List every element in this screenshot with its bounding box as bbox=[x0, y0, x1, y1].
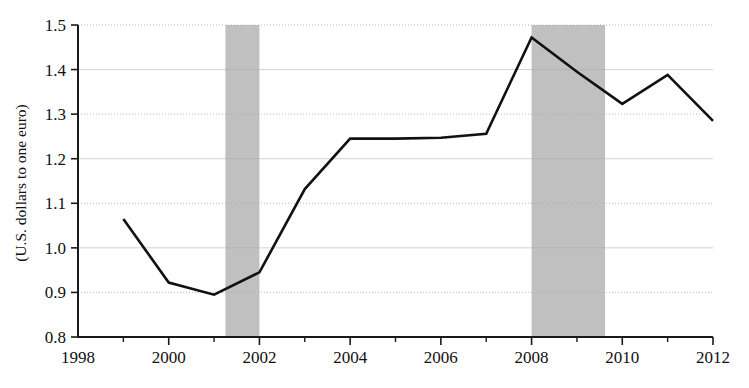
y-tick-label-0.9: 0.9 bbox=[45, 283, 66, 302]
x-tick-label-2000: 2000 bbox=[152, 348, 186, 367]
y-tick-label-1.2: 1.2 bbox=[45, 150, 66, 169]
x-tick-label-2008: 2008 bbox=[515, 348, 549, 367]
x-tick-label-2012: 2012 bbox=[696, 348, 730, 367]
shaded-band-recession-2001 bbox=[225, 25, 259, 337]
x-tick-label-1998: 1998 bbox=[61, 348, 95, 367]
chart-container: 0.80.91.01.11.21.31.41.5 199820002002200… bbox=[0, 0, 749, 388]
x-tick-label-2004: 2004 bbox=[333, 348, 368, 367]
line-chart: 0.80.91.01.11.21.31.41.5 199820002002200… bbox=[0, 0, 749, 388]
y-tick-label-1.3: 1.3 bbox=[45, 105, 66, 124]
y-axis-label-group: (U.S. dollars to one euro) bbox=[12, 104, 30, 262]
x-tick-label-2002: 2002 bbox=[242, 348, 276, 367]
y-tick-label-0.8: 0.8 bbox=[45, 328, 66, 347]
y-tick-label-1: 1.0 bbox=[45, 239, 66, 258]
y-tick-label-1.1: 1.1 bbox=[45, 194, 66, 213]
y-tick-label-1.4: 1.4 bbox=[45, 61, 67, 80]
x-tick-label-2006: 2006 bbox=[424, 348, 458, 367]
chart-background bbox=[0, 0, 749, 388]
x-tick-label-2010: 2010 bbox=[605, 348, 639, 367]
y-axis-label: (U.S. dollars to one euro) bbox=[12, 104, 30, 262]
shaded-band-recession-2008 bbox=[532, 25, 605, 337]
y-tick-label-1.5: 1.5 bbox=[45, 16, 66, 35]
